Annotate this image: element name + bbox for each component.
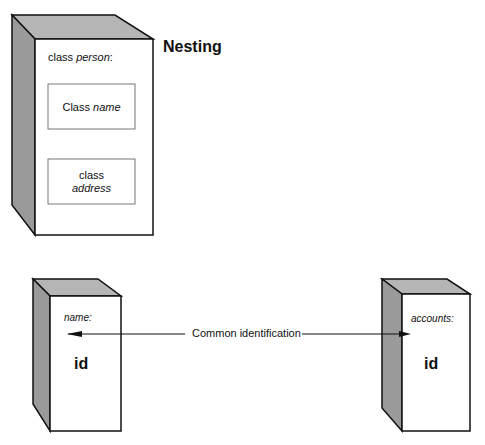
inner-box-name: Class name xyxy=(48,101,135,113)
nesting-box-shape xyxy=(12,15,153,235)
right-box-label: accounts: xyxy=(411,313,454,324)
diagram-title: Nesting xyxy=(163,38,222,56)
right-box-field: id xyxy=(424,355,438,373)
left-box-field: id xyxy=(74,355,88,373)
diagram-canvas xyxy=(0,0,485,445)
inner-box-address: classaddress xyxy=(48,169,135,195)
nesting-box-label: class person: xyxy=(48,51,113,63)
left-box-label: name: xyxy=(64,312,92,323)
connector-label: Common identification xyxy=(192,327,301,339)
